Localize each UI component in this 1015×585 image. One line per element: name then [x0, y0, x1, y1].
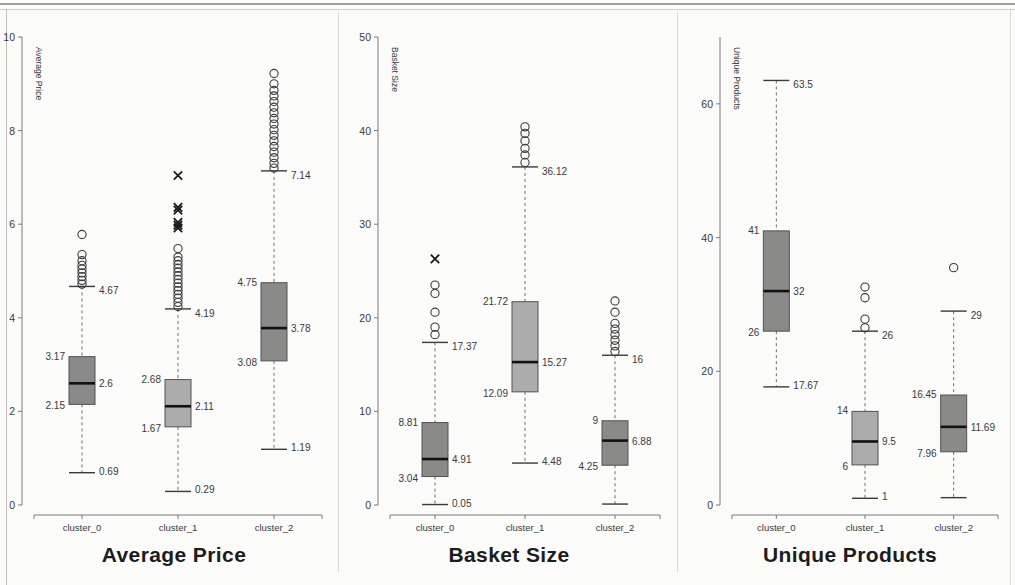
y-tick-label: 2	[9, 405, 15, 417]
outlier-x-marker	[174, 171, 182, 179]
outlier-circle	[950, 264, 958, 272]
label-whisker-high: 4.67	[99, 285, 119, 296]
label-whisker-high: 17.37	[452, 341, 477, 352]
panel-title-unique-products: Unique Products	[676, 543, 1014, 567]
box-rect[interactable]	[69, 357, 95, 405]
box-basket-size-cluster_0[interactable]: 17.378.814.913.040.05	[399, 255, 478, 509]
outlier-circle	[861, 315, 869, 323]
label-whisker-low: 0.69	[99, 466, 119, 477]
label-whisker-high: 7.14	[291, 170, 311, 181]
box-rect[interactable]	[852, 411, 878, 464]
label-q1: 26	[748, 327, 760, 338]
box-rect[interactable]	[602, 421, 628, 465]
y-tick-label: 60	[701, 98, 713, 110]
x-tick-label-cluster_0: cluster_0	[416, 522, 455, 533]
label-q3: 3.17	[46, 351, 66, 362]
box-basket-size-cluster_1[interactable]: 36.1221.7215.2712.094.48	[483, 123, 567, 467]
y-tick-label: 10	[359, 405, 371, 417]
label-q1: 3.08	[238, 357, 258, 368]
x-tick-label-cluster_2: cluster_2	[596, 522, 635, 533]
outlier-circle	[270, 69, 278, 77]
label-q3: 8.81	[399, 417, 419, 428]
outlier-circle	[78, 230, 86, 238]
y-tick-label: 0	[365, 499, 371, 511]
label-whisker-high: 36.12	[542, 166, 567, 177]
y-tick-label: 40	[701, 232, 713, 244]
x-tick-label-cluster_1: cluster_1	[506, 522, 545, 533]
label-q3: 4.75	[238, 277, 258, 288]
box-rect[interactable]	[763, 231, 789, 331]
label-median: 2.11	[195, 401, 214, 412]
outlier-circle	[611, 297, 619, 305]
y-tick-label: 4	[9, 312, 15, 324]
label-whisker-low: 0.05	[452, 498, 472, 509]
label-q1: 12.09	[483, 388, 508, 399]
box-rect[interactable]	[941, 395, 967, 452]
y-tick-label: 0	[707, 499, 713, 511]
x-tick-label-cluster_2: cluster_2	[934, 522, 973, 533]
label-median: 3.78	[291, 323, 311, 334]
label-median: 2.6	[99, 378, 113, 389]
label-whisker-low: 1	[882, 491, 888, 502]
outlier-circle	[611, 308, 619, 316]
outlier-circle	[431, 281, 439, 289]
outlier-x-marker	[431, 255, 439, 263]
outlier-circle	[174, 244, 182, 252]
outlier-circle	[431, 308, 439, 316]
box-rect[interactable]	[165, 380, 191, 427]
label-whisker-low: 17.67	[793, 380, 818, 391]
box-unique-products-cluster_1[interactable]: 26149.561	[837, 283, 896, 502]
label-whisker-high: 4.19	[195, 308, 215, 319]
label-median: 6.88	[632, 436, 652, 447]
x-tick-label-cluster_1: cluster_1	[846, 522, 885, 533]
label-whisker-high: 16	[632, 354, 644, 365]
x-tick-label-cluster_0: cluster_0	[63, 522, 102, 533]
label-whisker-high: 26	[882, 330, 894, 341]
label-median: 15.27	[542, 357, 567, 368]
plot-area-unique-products: 0204060Unique Products63.541322617.67clu…	[701, 37, 998, 533]
y-tick-label: 6	[9, 218, 15, 230]
x-tick-label-cluster_1: cluster_1	[159, 522, 198, 533]
box-average-price-cluster_1[interactable]: 4.192.682.111.670.29	[142, 171, 215, 495]
box-average-price-cluster_2[interactable]: 7.144.753.783.081.19	[238, 69, 311, 453]
outlier-circle	[861, 294, 869, 302]
box-average-price-cluster_0[interactable]: 4.673.172.62.150.69	[46, 230, 119, 476]
label-q1: 3.04	[399, 473, 419, 484]
label-median: 11.69	[971, 422, 996, 433]
y-axis-label: Unique Products	[732, 47, 742, 110]
label-q1: 1.67	[142, 423, 162, 434]
label-whisker-low: 4.48	[542, 456, 562, 467]
panel-basket-size: 01020304050Basket Size17.378.814.913.040…	[338, 10, 676, 585]
y-tick-label: 0	[9, 499, 15, 511]
label-q3: 14	[837, 405, 849, 416]
outlier-circle	[431, 289, 439, 297]
label-whisker-high: 29	[971, 310, 983, 321]
panel-average-price: 0246810Average Price4.673.172.62.150.69c…	[0, 10, 338, 585]
plot-area-basket-size: 01020304050Basket Size17.378.814.913.040…	[359, 31, 660, 533]
y-tick-label: 50	[359, 31, 371, 43]
y-axis-label: Average Price	[34, 47, 44, 101]
y-tick-label: 20	[701, 365, 713, 377]
box-basket-size-cluster_2[interactable]: 1696.884.25	[579, 297, 652, 504]
y-tick-label: 30	[359, 218, 371, 230]
box-unique-products-cluster_2[interactable]: 2916.4511.697.96	[912, 264, 996, 498]
y-tick-label: 20	[359, 312, 371, 324]
outlier-circle	[611, 319, 619, 327]
x-tick-label-cluster_2: cluster_2	[255, 522, 294, 533]
label-median: 9.5	[882, 436, 896, 447]
box-rect[interactable]	[261, 283, 287, 361]
label-q1: 7.96	[917, 448, 937, 459]
label-q3: 41	[748, 225, 760, 236]
box-unique-products-cluster_0[interactable]: 63.541322617.67	[748, 79, 819, 390]
outlier-circle	[78, 251, 86, 259]
panel-title-average-price: Average Price	[0, 543, 338, 567]
box-rect[interactable]	[512, 302, 538, 392]
label-q1: 4.25	[579, 461, 599, 472]
box-rect[interactable]	[422, 423, 448, 477]
x-tick-label-cluster_0: cluster_0	[757, 522, 796, 533]
label-whisker-low: 0.29	[195, 484, 215, 495]
panel-title-basket-size: Basket Size	[338, 543, 676, 567]
label-q3: 16.45	[912, 389, 937, 400]
label-q1: 6	[842, 461, 848, 472]
y-tick-label: 10	[3, 31, 15, 43]
